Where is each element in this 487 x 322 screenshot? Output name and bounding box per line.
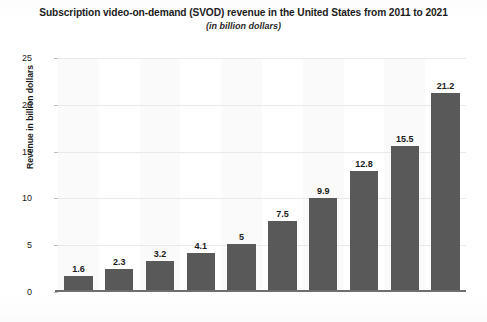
bar-value-label: 21.2	[425, 81, 466, 91]
bar-value-label: 4.1	[180, 241, 221, 251]
y-axis-tick-label: 20	[0, 100, 32, 110]
bar-value-label: 3.2	[140, 249, 181, 259]
bar[interactable]	[309, 198, 338, 291]
y-axis-tick-label: 5	[0, 240, 32, 250]
bar[interactable]	[105, 269, 134, 291]
y-axis-tick-mark	[54, 58, 58, 59]
gridline	[58, 58, 466, 59]
x-axis-line	[55, 290, 466, 292]
y-axis-tick-mark	[54, 198, 58, 199]
bar[interactable]	[350, 171, 379, 291]
bar[interactable]	[146, 261, 175, 291]
bar-value-label: 12.8	[344, 159, 385, 169]
bar[interactable]	[391, 146, 420, 291]
y-axis-tick-mark	[54, 292, 58, 293]
gridline	[58, 105, 466, 106]
y-axis-tick-label: 10	[0, 193, 32, 203]
bar-value-label: 5	[221, 232, 262, 242]
y-axis-tick-label: 0	[0, 287, 32, 297]
y-axis-tick-label: 15	[0, 147, 32, 157]
plot-area: 0510152025 1.62.33.24.157.59.912.815.521…	[58, 58, 466, 292]
bar-value-label: 9.9	[303, 186, 344, 196]
page-title: Subscription video-on-demand (SVOD) reve…	[0, 6, 487, 19]
bar-value-label: 15.5	[384, 134, 425, 144]
bar-value-label: 2.3	[99, 257, 140, 267]
svod-revenue-bar-chart: Subscription video-on-demand (SVOD) reve…	[0, 0, 487, 322]
bar[interactable]	[187, 253, 216, 291]
chart-subtitle: (in billion dollars)	[0, 20, 487, 32]
y-axis-tick-mark	[54, 152, 58, 153]
bar[interactable]	[268, 221, 297, 291]
bar[interactable]	[227, 244, 256, 291]
y-axis-tick-label: 25	[0, 53, 32, 63]
background-band	[58, 58, 99, 292]
bar[interactable]	[431, 93, 460, 291]
bar-value-label: 1.6	[58, 264, 99, 274]
bar-value-label: 7.5	[262, 209, 303, 219]
y-axis-tick-mark	[54, 105, 58, 106]
y-axis-tick-mark	[54, 245, 58, 246]
bar[interactable]	[64, 276, 93, 291]
chart-title-block: Subscription video-on-demand (SVOD) reve…	[0, 6, 487, 32]
